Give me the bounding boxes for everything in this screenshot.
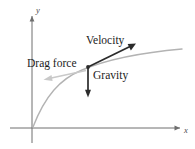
drag-force-label: Drag force: [27, 58, 76, 70]
y-axis-arrowhead-icon: [30, 16, 35, 22]
x-axis: [10, 126, 180, 131]
x-axis-label: x: [184, 126, 188, 135]
x-axis-arrowhead-icon: [175, 126, 181, 131]
y-axis-label: y: [36, 6, 40, 15]
velocity-label: Velocity: [86, 35, 124, 47]
drag-force-arrowhead-icon: [44, 75, 53, 81]
projectile-drag-diagram: Velocity Drag force Gravity y x: [0, 0, 195, 149]
velocity-vector: [88, 44, 136, 67]
particle-dot: [86, 65, 90, 69]
gravity-label: Gravity: [93, 70, 128, 82]
gravity-arrowhead-icon: [85, 90, 91, 98]
gravity-vector: [85, 67, 91, 98]
